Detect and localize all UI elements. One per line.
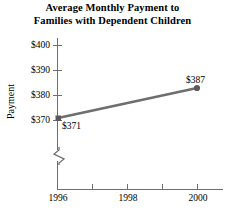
data-point-1996 (56, 116, 62, 122)
plot-area (0, 0, 225, 212)
data-line-series (58, 88, 197, 118)
data-label-2000: $387 (186, 75, 205, 85)
data-label-1996: $371 (62, 121, 81, 131)
line-chart: Average Monthly Payment to Families with… (0, 0, 225, 212)
data-point-2000 (194, 85, 200, 91)
